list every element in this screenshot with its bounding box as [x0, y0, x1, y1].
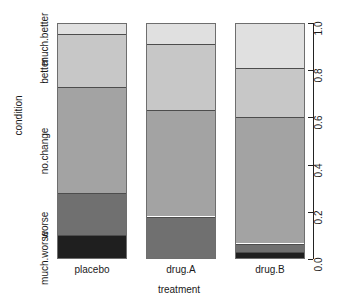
y-axis-label-better: better	[39, 58, 50, 84]
bar-segment-drug-B-much-worse[interactable]	[235, 252, 305, 259]
y-axis-label-much-worse: much.worse	[39, 231, 50, 285]
right-axis-tick-label-1.0: 1.0	[313, 22, 324, 36]
bar-segment-placebo-worse[interactable]	[57, 193, 127, 235]
bar-segment-drug-A-no-change[interactable]	[146, 110, 216, 216]
bar-column-drug-A[interactable]	[146, 23, 216, 259]
bar-column-drug-B[interactable]	[235, 23, 305, 259]
y-axis-label-no-change: no.change	[39, 127, 50, 174]
bar-segment-placebo-much-worse[interactable]	[57, 235, 127, 259]
right-axis-tick-label-0.6: 0.6	[313, 116, 324, 130]
right-axis-tick-label-0.2: 0.2	[313, 211, 324, 225]
bar-column-placebo[interactable]	[57, 23, 127, 259]
bar-segment-drug-A-worse[interactable]	[146, 217, 216, 259]
right-axis-tick-label-0.4: 0.4	[313, 164, 324, 178]
bar-segment-placebo-better[interactable]	[57, 34, 127, 87]
x-axis-label-drug-A: drug.A	[146, 264, 216, 275]
bar-segment-placebo-no-change[interactable]	[57, 87, 127, 193]
x-axis-title-treatment: treatment	[0, 284, 358, 295]
y-axis-title-condition: condition	[13, 76, 24, 156]
bar-segment-drug-A-better[interactable]	[146, 44, 216, 110]
bar-segment-drug-A-much-better[interactable]	[146, 23, 216, 44]
right-axis-tick-label-0.0: 0.0	[313, 258, 324, 272]
bar-segment-drug-B-worse[interactable]	[235, 244, 305, 252]
bar-segment-placebo-much-better[interactable]	[57, 23, 127, 34]
bar-segment-drug-B-better[interactable]	[235, 68, 305, 118]
x-axis-label-drug-B: drug.B	[235, 264, 305, 275]
bar-segment-drug-B-much-better[interactable]	[235, 23, 305, 68]
x-axis-label-placebo: placebo	[57, 264, 127, 275]
right-axis-tick-label-0.8: 0.8	[313, 69, 324, 83]
mosaic-plot: condition much.betterbetterno.changewors…	[0, 0, 358, 305]
bar-segment-drug-B-no-change[interactable]	[235, 117, 305, 243]
